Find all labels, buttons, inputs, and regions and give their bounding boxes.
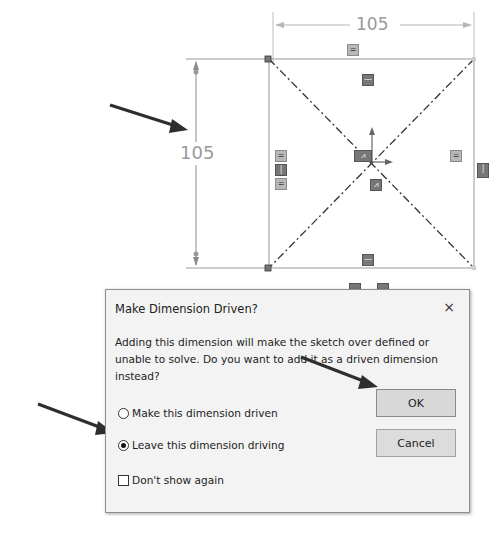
radio-label: Leave this dimension driving [132,439,285,451]
checkbox-label: Don't show again [132,474,224,486]
equal-relation-icon[interactable]: = [275,178,287,190]
dialog-title: Make Dimension Driven? [115,302,258,316]
cancel-button[interactable]: Cancel [376,429,456,457]
dont-show-again-checkbox[interactable]: Don't show again [118,474,224,486]
equal-relation-icon[interactable]: = [347,44,359,56]
equal-relation-icon[interactable]: = [450,150,462,162]
ok-button[interactable]: OK [376,389,456,417]
radio-label: Make this dimension driven [132,407,278,419]
dialog-message: Adding this dimension will make the sket… [115,334,465,385]
vertical-dimension-value[interactable]: 105 [177,142,217,163]
radio-make-driven[interactable]: Make this dimension driven [118,407,278,419]
horizontal-relation-icon[interactable]: — [362,254,374,266]
radio-button-selected[interactable] [118,440,129,451]
equal-relation-icon[interactable]: = [275,150,287,162]
make-dimension-driven-dialog: Make Dimension Driven? × Adding this dim… [105,289,470,513]
horizontal-dimension-value[interactable]: 105 [353,14,391,34]
radio-button[interactable] [118,408,129,419]
vertical-relation-icon[interactable]: | [477,163,489,178]
checkbox[interactable] [118,475,129,486]
horizontal-relation-icon[interactable]: — [362,74,374,86]
radio-leave-driving[interactable]: Leave this dimension driving [118,439,285,451]
vertical-relation-icon[interactable]: | [275,164,287,176]
midpoint-relation-icon[interactable]: ⩘ [370,179,382,191]
close-icon[interactable]: × [443,299,455,315]
midpoint-relation-icon[interactable]: ⩘ [354,150,372,162]
